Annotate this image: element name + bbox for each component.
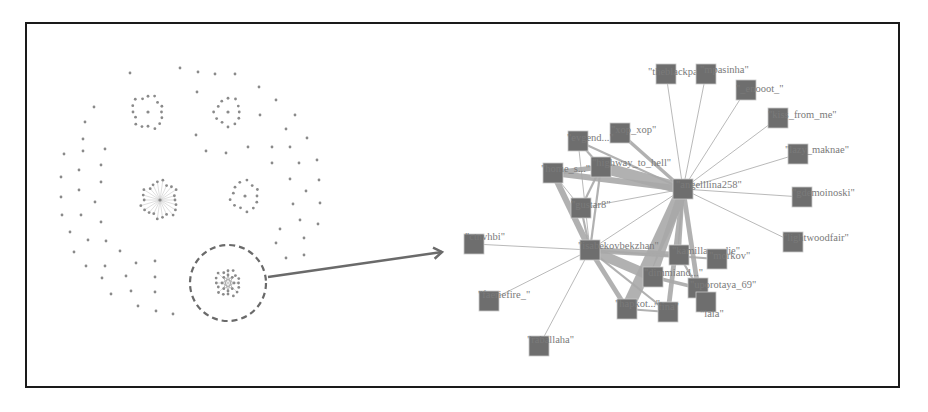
node-dot: [289, 146, 292, 149]
node-enooot[interactable]: "_enooot_": [736, 80, 784, 100]
node-morkov[interactable]: "morkov": [707, 249, 750, 269]
node-dot: [137, 305, 140, 308]
node-dot: [93, 106, 96, 109]
cluster-top-left: [131, 95, 163, 130]
node-dot: [78, 169, 81, 172]
node-dot: [78, 189, 81, 192]
node-dot: [87, 239, 90, 242]
node-dot: [129, 72, 132, 75]
node-dot: [317, 223, 320, 226]
network-diagram: "theblackpanda""mpasinha""_enooot_""kiss…: [0, 0, 928, 412]
node-dot: [61, 214, 64, 217]
zoom-arrow: [268, 248, 442, 277]
node-dot: [154, 260, 157, 263]
node-dot: [279, 228, 282, 231]
node-dot: [225, 152, 228, 155]
cluster-highlighted: [215, 269, 240, 297]
node-dot: [196, 91, 199, 94]
node-label: "angelllina258": [676, 179, 742, 190]
cluster-mid-right: [229, 179, 259, 214]
node-dot: [85, 265, 88, 268]
node-label: "mpasinha": [700, 64, 749, 75]
node-dot: [80, 214, 83, 217]
node-label: "uporotaya_69": [690, 279, 756, 290]
node-label: "gdemoinoski": [792, 187, 855, 198]
node-dot: [154, 276, 157, 279]
node-gustar8[interactable]: "gustar8": [571, 198, 610, 218]
node-label: "kiss_from_me": [768, 109, 837, 120]
node-angelllina258[interactable]: "angelllina258": [673, 179, 742, 199]
node-dot: [104, 265, 107, 268]
node-dot: [60, 176, 63, 179]
node-dot: [197, 71, 200, 74]
network-edge: [683, 189, 793, 242]
node-home-s[interactable]: "home_s...": [541, 163, 590, 183]
cluster-mid-left: [139, 179, 177, 221]
node-dot: [289, 178, 292, 181]
node-dot: [100, 164, 103, 167]
node-dot: [135, 262, 138, 265]
node-dot: [110, 293, 113, 296]
node-lazy-maknae[interactable]: "lazy_maknae": [785, 144, 849, 164]
node-dot: [319, 202, 322, 205]
cluster-top-center: [212, 97, 240, 129]
node-dot: [172, 313, 175, 316]
node-dot: [82, 150, 85, 153]
overview-graph: [60, 67, 322, 321]
node-dot: [105, 240, 108, 243]
node-label: "lightwoodfair": [783, 232, 849, 243]
node-dot: [125, 275, 128, 278]
node-label: "xop_xop": [611, 124, 656, 135]
node-label: "lala": [700, 308, 724, 319]
node-label: "gustar8": [571, 199, 610, 210]
node-dot: [205, 150, 208, 153]
node-dot: [306, 137, 309, 140]
node-dot: [275, 242, 278, 245]
node-xop-xop[interactable]: "xop_xop": [610, 123, 656, 143]
node-dot: [195, 134, 198, 137]
node-evgeniy[interactable]: "evgend...": [567, 131, 614, 151]
node-dot: [318, 179, 321, 182]
node-label: "highway_to_hell": [592, 157, 671, 168]
node-gdemoinoski[interactable]: "gdemoinoski": [792, 187, 855, 207]
node-dot: [303, 237, 306, 240]
node-dot: [299, 219, 302, 222]
network-edge: [666, 74, 683, 189]
node-label: "morkov": [709, 250, 750, 261]
node-dot: [305, 190, 308, 193]
node-dot: [82, 138, 85, 141]
node-kiss-from-me[interactable]: "kiss_from_me": [768, 108, 837, 128]
node-dot: [60, 196, 63, 199]
node-dot: [303, 254, 306, 257]
node-dot: [214, 73, 217, 76]
node-dot: [271, 146, 274, 149]
node-dot: [154, 291, 157, 294]
network-edge: [539, 250, 590, 346]
node-dot: [292, 203, 295, 206]
node-label: "isabekovbekzhan": [578, 240, 659, 251]
node-dot: [285, 128, 288, 131]
node-raballaha[interactable]: "raballaha": [527, 334, 574, 356]
node-dot: [316, 159, 319, 162]
node-dot: [155, 310, 158, 313]
node-dot: [100, 221, 103, 224]
node-label: "dimmiand...": [644, 267, 703, 278]
node-dot: [259, 114, 262, 117]
node-dot: [234, 73, 237, 76]
node-dot: [258, 86, 261, 89]
node-lala[interactable]: "lala": [696, 292, 724, 319]
node-label: "evgend...": [567, 132, 614, 143]
node-dot: [285, 257, 288, 260]
node-faeriefire[interactable]: "faeriefire_": [478, 289, 530, 311]
node-dot: [294, 114, 297, 117]
node-dot: [73, 251, 76, 254]
node-label: "_enooot_": [736, 83, 784, 94]
node-lightwoodfair[interactable]: "lightwoodfair": [783, 232, 849, 252]
node-label: "raballaha": [527, 334, 574, 345]
node-dot: [104, 148, 107, 151]
node-fina[interactable]: "fina": [654, 301, 679, 322]
node-dot: [63, 153, 66, 156]
node-dot: [298, 162, 301, 165]
node-ctnvhbi[interactable]: "ctnvhbi": [464, 231, 505, 254]
node-dot: [69, 231, 72, 234]
